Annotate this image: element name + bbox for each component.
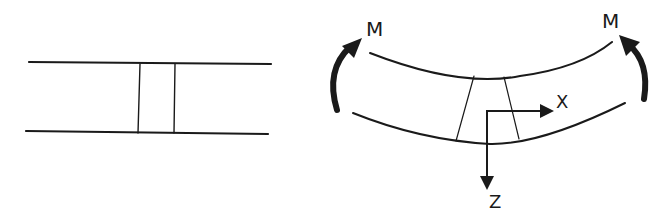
axis-x-label: X xyxy=(556,91,568,112)
bent-beam-top-edge xyxy=(370,42,612,79)
axis-x-arrowhead-icon xyxy=(540,104,554,118)
element-right-edge xyxy=(174,64,175,133)
bent-beam-bottom-edge xyxy=(353,103,625,144)
moment-arrow-right xyxy=(619,35,645,99)
straight-beam xyxy=(26,62,271,134)
bent-beam xyxy=(353,42,625,144)
element-left-edge xyxy=(138,64,140,133)
element-left-edge xyxy=(456,76,474,141)
moment-arrow-left xyxy=(333,38,362,110)
element-right-edge xyxy=(504,77,519,139)
beam-bottom-edge xyxy=(26,131,268,134)
moment-label-left: M xyxy=(366,17,383,41)
axis-z-arrowhead-icon xyxy=(480,176,494,190)
beam-top-edge xyxy=(29,62,271,64)
diagram-canvas: M M X Z xyxy=(0,0,669,213)
axis-z-label: Z xyxy=(489,191,501,212)
moment-label-right: M xyxy=(602,9,619,33)
coordinate-axes xyxy=(480,104,554,190)
